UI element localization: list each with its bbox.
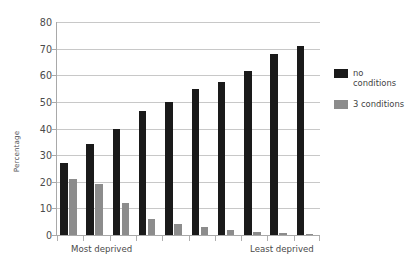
bar-group bbox=[241, 22, 267, 235]
x-axis-tickmark bbox=[215, 236, 216, 241]
x-axis-tickmark bbox=[83, 236, 84, 241]
y-axis-tickmark bbox=[52, 49, 57, 50]
x-axis-tickmark bbox=[57, 236, 58, 241]
bar-3-conditions bbox=[174, 224, 182, 235]
y-axis-tickmark bbox=[52, 102, 57, 103]
bar-3-conditions bbox=[95, 184, 103, 235]
y-axis-tick-label: 50 bbox=[26, 96, 52, 107]
x-axis-label-least-deprived: Least deprived bbox=[250, 244, 314, 254]
bar-no-conditions bbox=[60, 163, 68, 235]
y-axis-tick-label: 60 bbox=[26, 70, 52, 81]
bar-no-conditions bbox=[139, 111, 147, 235]
bar-group bbox=[267, 22, 293, 235]
bar-no-conditions bbox=[218, 82, 226, 235]
x-axis-tickmark bbox=[189, 236, 190, 241]
plot-area bbox=[57, 22, 320, 235]
bar-no-conditions bbox=[244, 71, 252, 235]
bar-no-conditions bbox=[270, 54, 278, 235]
y-axis-tick-label: 10 bbox=[26, 203, 52, 214]
y-axis-tick-label: 20 bbox=[26, 176, 52, 187]
y-axis-tickmark bbox=[52, 208, 57, 209]
bar-group bbox=[294, 22, 320, 235]
legend-swatch-icon-no-conditions bbox=[334, 69, 348, 78]
bar-3-conditions bbox=[122, 203, 130, 235]
legend-label-3-conditions: 3 conditions bbox=[353, 99, 404, 109]
x-axis-tickmark bbox=[136, 236, 137, 241]
bar-group bbox=[136, 22, 162, 235]
bar-group bbox=[57, 22, 83, 235]
x-axis-tickmark bbox=[294, 236, 295, 241]
y-axis-tickmark bbox=[52, 235, 57, 236]
y-axis-tick-label: 0 bbox=[26, 230, 52, 241]
y-axis-tick-label: 30 bbox=[26, 150, 52, 161]
bar-3-conditions bbox=[201, 227, 209, 235]
x-axis-tickmarks bbox=[57, 236, 320, 241]
y-axis-tick-label: 80 bbox=[26, 17, 52, 28]
y-axis-tick-labels: 80706050403020100 bbox=[26, 15, 52, 237]
x-axis-tickmark bbox=[319, 236, 320, 241]
y-axis-tickmark bbox=[52, 155, 57, 156]
bar-group bbox=[83, 22, 109, 235]
bar-no-conditions bbox=[113, 129, 121, 236]
bar-no-conditions bbox=[192, 89, 200, 235]
y-axis-tickmark bbox=[52, 75, 57, 76]
y-axis-tick-label: 40 bbox=[26, 123, 52, 134]
x-axis-tickmark bbox=[162, 236, 163, 241]
y-axis-title: Percentage bbox=[12, 117, 21, 187]
bar-group bbox=[215, 22, 241, 235]
bar-group bbox=[110, 22, 136, 235]
legend-entry-no-conditions: no conditions bbox=[334, 68, 396, 88]
x-axis-tickmark bbox=[241, 236, 242, 241]
x-axis-tickmark bbox=[267, 236, 268, 241]
x-axis-end-labels: Most deprived Least deprived bbox=[57, 244, 357, 260]
bar-3-conditions bbox=[69, 179, 77, 235]
bar-no-conditions bbox=[165, 102, 173, 235]
bars-layer bbox=[57, 22, 320, 235]
legend-label-no-conditions: no conditions bbox=[353, 68, 396, 88]
y-axis-tickmark bbox=[52, 182, 57, 183]
bar-group bbox=[162, 22, 188, 235]
bar-chart: Percentage 80706050403020100 Most depriv… bbox=[0, 0, 418, 273]
y-axis-tick-label: 70 bbox=[26, 43, 52, 54]
bar-no-conditions bbox=[297, 46, 305, 235]
x-axis-tickmark bbox=[110, 236, 111, 241]
x-axis-label-most-deprived: Most deprived bbox=[71, 244, 132, 254]
legend-entry-3-conditions: 3 conditions bbox=[334, 99, 404, 109]
legend-swatch-icon-3-conditions bbox=[334, 100, 348, 109]
bar-no-conditions bbox=[86, 144, 94, 235]
bar-3-conditions bbox=[148, 219, 156, 235]
bar-group bbox=[189, 22, 215, 235]
y-axis-tickmark bbox=[52, 129, 57, 130]
